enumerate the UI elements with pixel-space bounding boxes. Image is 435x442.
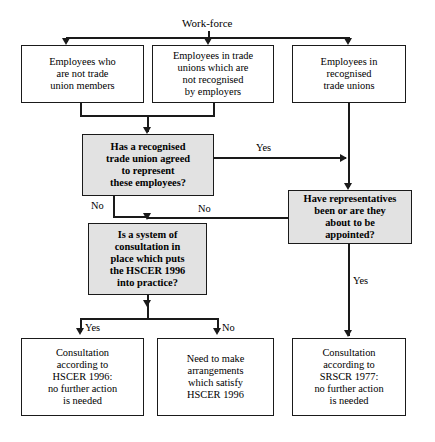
edge-reps-yes [348,244,350,336]
node-decision-recognised-union: Has a recognised trade union agreed to r… [82,134,214,196]
arrowhead-hscer-split [143,300,151,307]
node-outcome-hscer-compliant-text: Consultation according to HSCER 1996: no… [25,347,140,407]
arrowhead-hscer-no [213,328,221,335]
label-union-no: No [91,200,104,211]
flowchart-diagram: Work-force Employees who are not trade u… [0,0,435,442]
node-decision-recognised-union-text: Has a recognised trade union agreed to r… [86,141,210,189]
arrowhead-hscer-yes [76,328,84,335]
node-outcome-srscr-compliant: Consultation according to SRSCR 1977: no… [292,338,406,416]
arrowhead-to-reps-decision [344,183,352,190]
node-outcome-need-arrangements: Need to make arrangements which satisfy … [157,338,274,416]
node-employees-unrecognised-unions-text: Employees in trade unions which are not … [156,50,270,98]
arrowhead-to-workforce-box1 [62,38,70,45]
node-decision-representatives: Have representatives been or are they ab… [288,190,412,244]
node-outcome-srscr-compliant-text: Consultation according to SRSCR 1977: no… [296,347,402,407]
label-union-yes: Yes [256,142,271,153]
arrowhead-to-workforce-box3 [344,38,352,45]
arrowhead-reps-yes [344,330,352,337]
node-decision-hscer-system-text: Is a system of consultation in place whi… [92,229,203,289]
node-decision-representatives-text: Have representatives been or are they ab… [292,193,408,241]
label-reps-no: No [198,203,211,214]
edge-hscer-split-stem [147,307,149,319]
node-employees-recognised-unions-text: Employees in recognised trade unions [296,56,402,92]
node-employees-recognised-unions: Employees in recognised trade unions [292,45,406,103]
node-outcome-need-arrangements-text: Need to make arrangements which satisfy … [161,353,270,401]
node-decision-hscer-system: Is a system of consultation in place whi… [88,223,207,295]
edge-hscer-split-bar [80,318,218,320]
edge-union-no [113,196,115,217]
node-employees-unrecognised-unions: Employees in trade unions which are not … [152,45,274,103]
arrowhead-union-yes [340,154,347,162]
label-reps-yes: Yes [353,275,368,286]
node-outcome-hscer-compliant: Consultation according to HSCER 1996: no… [21,338,144,416]
edge-box3-down [348,103,350,187]
diagram-title: Work-force [182,17,232,29]
arrowhead-to-union-decision [143,127,151,134]
node-employees-not-union-members-text: Employees who are not trade union member… [25,56,140,92]
edge-union-yes [214,157,346,159]
node-employees-not-union-members: Employees who are not trade union member… [21,45,144,103]
edge-reps-no [147,217,289,219]
arrowhead-to-hscer-decision [143,213,151,220]
label-hscer-yes: Yes [85,322,100,333]
arrowhead-to-workforce-box2 [204,38,212,45]
label-hscer-no: No [222,322,235,333]
